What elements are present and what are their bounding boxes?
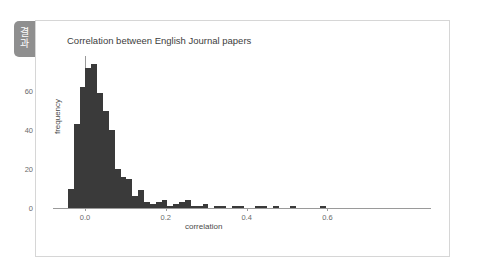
histogram-bar (238, 206, 244, 208)
y-tick-label: 60 (0, 87, 33, 96)
histogram-bar (320, 206, 326, 208)
histogram-bars (35, 20, 450, 257)
histogram-bar (261, 206, 267, 208)
histogram-bar (290, 206, 296, 208)
slide-canvas: 결 과 Correlation between English Journal … (0, 0, 485, 280)
histogram-bar (203, 204, 209, 208)
histogram-bar (273, 206, 279, 208)
y-tick-label: 40 (0, 126, 33, 135)
histogram-chart: Correlation between English Journal pape… (35, 20, 450, 257)
result-tab[interactable]: 결 과 (14, 21, 35, 57)
result-tab-char-2: 과 (14, 38, 35, 49)
histogram-bar (220, 206, 226, 208)
y-tick-label: 20 (0, 165, 33, 174)
result-tab-char-1: 결 (14, 27, 35, 38)
y-tick-label: 0 (0, 204, 33, 213)
